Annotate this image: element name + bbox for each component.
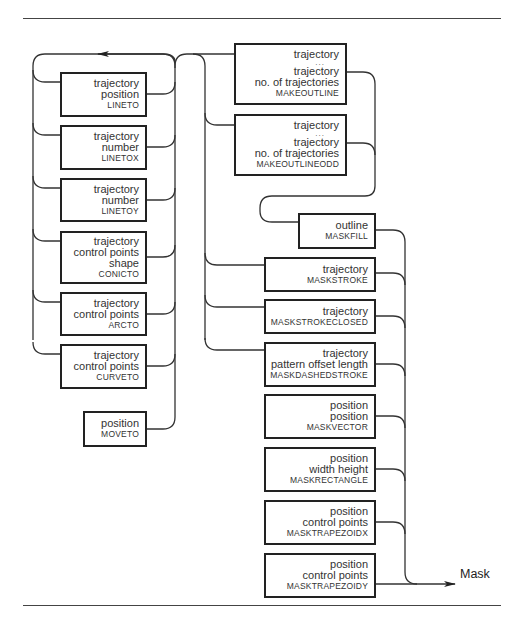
- arg-label: control points: [74, 309, 139, 320]
- arg-label: control points: [303, 570, 368, 581]
- operator-name: LINETOX: [101, 153, 139, 164]
- operator-name: LINETO: [107, 100, 139, 111]
- operator-name: CURVETO: [96, 372, 139, 383]
- operator-name: CONICTO: [99, 269, 139, 280]
- op-box-maskstroke: trajectory MASKSTROKE: [264, 257, 376, 292]
- op-box-masktrapezoidy: position control points MASKTRAPEZOIDY: [264, 553, 376, 598]
- operator-name: MASKSTROKE: [307, 275, 368, 286]
- arg-label: pattern offset length: [271, 359, 368, 370]
- arg-label: control points: [74, 247, 139, 258]
- op-box-linetoy: trajectory number LINETOY: [60, 178, 147, 222]
- operator-name: MASKDASHEDSTROKE: [270, 370, 368, 381]
- arg-label: no. of trajectories: [255, 148, 339, 159]
- operator-name: MAKEOUTLINEODD: [256, 159, 339, 170]
- operator-name: LINETOY: [101, 206, 139, 217]
- op-box-maskfill: outline MASKFILL: [298, 213, 376, 249]
- arg-label: number: [102, 195, 139, 206]
- operator-name: MASKFILL: [325, 231, 368, 242]
- arg-label: width height: [309, 464, 368, 475]
- arg-label: shape: [109, 258, 139, 269]
- arg-label: trajectory: [94, 236, 139, 247]
- op-box-linetox: trajectory number LINETOX: [60, 125, 147, 170]
- op-box-conicto: trajectory control points shape CONICTO: [60, 231, 147, 284]
- op-box-makeoutline: trajectory ... trajectory no. of traject…: [234, 43, 347, 105]
- op-box-curveto: trajectory control points CURVETO: [60, 344, 147, 389]
- op-box-maskstrokeclosed: trajectory MASKSTROKECLOSED: [264, 299, 376, 334]
- op-box-maskdashedstroke: trajectory pattern offset length MASKDAS…: [264, 342, 376, 387]
- op-box-maskrectangle: position width height MASKRECTANGLE: [264, 447, 376, 492]
- arg-label: trajectory: [323, 264, 368, 275]
- op-box-maskvector: position position MASKVECTOR: [264, 394, 376, 439]
- arg-label: control points: [303, 517, 368, 528]
- arg-label: number: [102, 142, 139, 153]
- arg-label: position: [101, 418, 139, 429]
- operator-name: MASKTRAPEZOIDX: [287, 528, 368, 539]
- arg-label: trajectory: [94, 298, 139, 309]
- op-box-arcto: trajectory control points ARCTO: [60, 292, 147, 336]
- operator-name: MASKVECTOR: [307, 422, 368, 433]
- operator-name: MASKTRAPEZOIDY: [287, 581, 368, 592]
- arg-label: trajectory: [323, 306, 368, 317]
- arg-label: position: [330, 411, 368, 422]
- operator-name: MOVETO: [101, 429, 139, 440]
- operator-name: MAKEOUTLINE: [276, 88, 339, 99]
- arg-label: control points: [74, 361, 139, 372]
- op-box-makeoutlineodd: trajectory ... trajectory no. of traject…: [234, 114, 347, 176]
- arg-label: outline: [336, 220, 368, 231]
- operator-name: ARCTO: [108, 320, 139, 331]
- op-box-lineto: trajectory position LINETO: [60, 72, 147, 117]
- operator-name: MASKRECTANGLE: [290, 475, 368, 486]
- arg-label: trajectory: [94, 184, 139, 195]
- output-label-mask: Mask: [460, 567, 490, 581]
- op-box-moveto: position MOVETO: [83, 411, 147, 447]
- op-box-masktrapezoidx: position control points MASKTRAPEZOIDX: [264, 500, 376, 545]
- operator-name: MASKSTROKECLOSED: [271, 317, 368, 328]
- arg-label: no. of trajectories: [255, 77, 339, 88]
- mask-syntax-diagram: trajectory position LINETO trajectory nu…: [0, 0, 520, 625]
- arg-label: position: [101, 89, 139, 100]
